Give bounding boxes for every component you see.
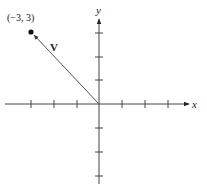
cartesian-plane: x y V (−3, 3): [0, 0, 207, 194]
x-axis-label: x: [191, 98, 197, 110]
vector-v: V: [34, 35, 99, 104]
y-axis-label: y: [95, 4, 101, 16]
vector-label: V: [50, 41, 58, 53]
y-axis: y: [95, 4, 103, 184]
point-marker: (−3, 3): [7, 12, 34, 35]
point-label: (−3, 3): [7, 12, 34, 24]
x-axis: x: [5, 98, 197, 110]
